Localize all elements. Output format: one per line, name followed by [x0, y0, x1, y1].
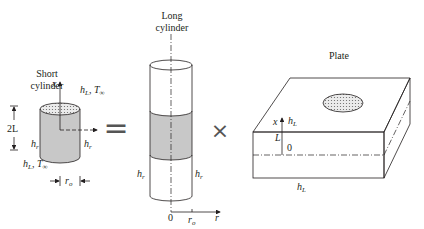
short-top-h: hL, T∞ [80, 84, 104, 97]
short-radius-label: ro [65, 175, 73, 188]
long-cylinder-title-2: cylinder [156, 22, 189, 33]
plate-side-face [384, 78, 410, 178]
diagram-canvas: Short cylinder x hL, T∞ 2L hr hr hL, T∞ [0, 0, 424, 229]
plate-origin: 0 [287, 142, 292, 153]
short-cylinder-group: Short cylinder x hL, T∞ 2L hr hr hL, T∞ [7, 68, 104, 188]
times-sign: × [211, 118, 229, 143]
long-r-axis-label: r [215, 212, 219, 223]
plate-midplane-side [384, 101, 410, 155]
plate-x-label: x [272, 116, 278, 127]
equals-sign: = [103, 110, 128, 145]
short-x-label: x [51, 78, 57, 89]
short-height-label: 2L [7, 123, 18, 134]
short-right-h: hr [84, 138, 92, 151]
short-cylinder-title-2: cylinder [31, 80, 64, 91]
long-right-h: hr [195, 168, 203, 181]
plate-L-label: L [274, 132, 281, 143]
long-cylinder-group: Long cylinder 0 ro r hr hr [137, 10, 220, 227]
plate-group: Plate x hL L 0 hL [253, 50, 410, 194]
plate-bottom-h: hL [297, 181, 306, 194]
short-left-h: hr [31, 138, 39, 151]
long-left-h: hr [137, 168, 145, 181]
plate-top-h: hL [288, 115, 297, 128]
long-origin: 0 [168, 212, 173, 223]
long-radius-label: ro [188, 214, 196, 227]
plate-title: Plate [329, 50, 350, 61]
plate-top-ellipse [323, 94, 363, 112]
long-cylinder-title-1: Long [161, 10, 182, 21]
